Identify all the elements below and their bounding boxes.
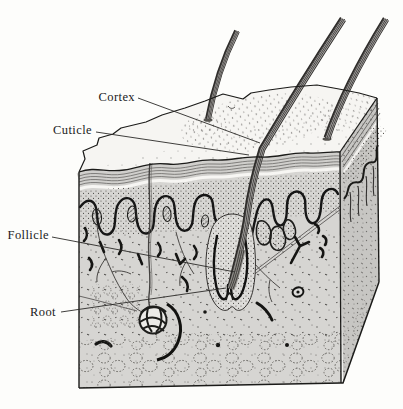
cuticle-label: Cuticle [53,124,92,137]
skin-block-illustration [0,0,403,409]
skin-anatomy-figure: Cortex Cuticle Follicle Root [0,0,403,409]
root-label: Root [30,306,56,319]
cortex-label: Cortex [99,91,135,104]
dermal-papilla [226,293,233,300]
follicle-label: Follicle [8,229,49,242]
